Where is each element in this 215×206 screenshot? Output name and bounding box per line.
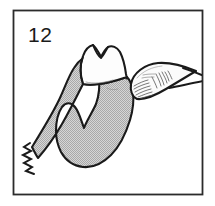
figure-panel: 12 — [0, 0, 215, 206]
dental-illustration: 12 — [0, 0, 215, 206]
crown-outline — [81, 45, 127, 85]
figure-number: 12 — [28, 23, 52, 46]
